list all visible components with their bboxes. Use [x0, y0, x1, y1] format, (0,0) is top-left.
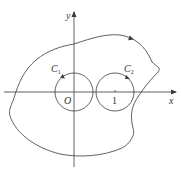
x-axis-label: x [169, 96, 173, 106]
y-axis-label: y [66, 11, 70, 21]
contour-diagram: y x O 1 C1 C2 [0, 0, 181, 175]
outer-curve [9, 35, 159, 156]
outer-curve-arrow-icon [128, 35, 134, 41]
c2-label: C2 [124, 64, 134, 75]
c2-label-subscript: 2 [131, 69, 134, 75]
c2-arrow-icon [125, 75, 130, 79]
c1-label-subscript: 1 [58, 69, 61, 75]
tick-label-1: 1 [112, 96, 117, 106]
c1-label: C1 [51, 64, 61, 75]
origin-label: O [64, 96, 71, 106]
c1-label-letter: C [51, 63, 58, 74]
diagram-canvas [0, 0, 181, 175]
c2-label-letter: C [124, 63, 131, 74]
